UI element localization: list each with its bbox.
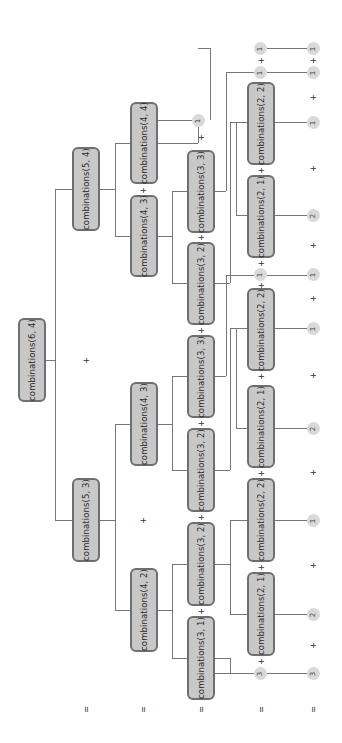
connector-line: [226, 275, 227, 376]
call-node-label: combinations(3, 1): [196, 617, 206, 699]
connector-line: [215, 191, 226, 192]
connector-line: [172, 470, 187, 471]
plus-operator: +: [138, 185, 148, 195]
call-node: combinations(2, 1): [247, 572, 275, 656]
connector-line: [236, 215, 247, 216]
equals-operator: =: [138, 704, 148, 714]
call-node: combinations(3, 1): [187, 616, 215, 700]
call-node-label: combinations(3, 3): [196, 151, 206, 233]
connector-line: [158, 143, 198, 144]
call-node-label: combinations(2, 1): [256, 176, 266, 258]
call-node-label: combinations(6, 4): [27, 319, 37, 401]
connector-line: [275, 122, 307, 123]
result-leaf: 1: [192, 114, 205, 127]
connector-line: [215, 376, 226, 377]
call-node-label: combinations(4, 4): [139, 102, 149, 184]
call-node: combinations(3, 2): [187, 242, 215, 325]
call-node-label: combinations(4, 3): [139, 195, 149, 277]
result-leaf: 1: [307, 268, 320, 281]
plus-operator: +: [256, 280, 266, 290]
result-value: 1: [310, 120, 318, 124]
connector-line: [172, 376, 187, 377]
connector-line: [267, 72, 307, 73]
plus-operator: +: [196, 418, 206, 428]
result-leaf: 3: [254, 667, 267, 680]
call-node: combinations(2, 1): [247, 385, 275, 468]
call-node: combinations(4, 2): [130, 568, 158, 652]
connector-line: [275, 328, 307, 329]
result-leaf: 3: [307, 667, 320, 680]
connector-line: [275, 215, 307, 216]
connector-line: [275, 614, 307, 615]
plus-operator: +: [256, 371, 266, 381]
call-node-label: combinations(5, 3): [81, 479, 91, 561]
plus-operator: +: [256, 55, 266, 65]
connector-line: [198, 48, 210, 49]
plus-operator: +: [138, 515, 148, 525]
plus-operator: +: [196, 512, 206, 522]
connector-line: [236, 328, 237, 428]
connector-line: [226, 275, 254, 276]
result-value: 1: [310, 70, 318, 74]
connector-line: [215, 470, 230, 471]
call-node: combinations(4, 4): [130, 102, 158, 184]
result-leaf: 1: [307, 514, 320, 527]
connector-line: [115, 236, 130, 237]
plus-operator: +: [308, 92, 318, 102]
connector-line: [100, 189, 115, 190]
connector-line: [115, 143, 116, 236]
connector-line: [115, 143, 130, 144]
call-node: combinations(6, 4): [18, 318, 46, 402]
call-node-label: combinations(3, 2): [196, 243, 206, 325]
connector-line: [236, 428, 247, 429]
result-value: 3: [310, 671, 318, 675]
result-value: 1: [310, 272, 318, 276]
connector-line: [158, 236, 172, 237]
result-value: 1: [257, 46, 265, 50]
plus-operator: +: [308, 293, 318, 303]
call-node: combinations(2, 1): [247, 175, 275, 258]
plus-operator: +: [256, 468, 266, 478]
result-leaf: 1: [254, 42, 267, 55]
connector-line: [115, 424, 130, 425]
connector-line: [275, 428, 307, 429]
connector-line: [226, 72, 254, 73]
equals-operator: =: [308, 704, 318, 714]
connector-line: [100, 520, 115, 521]
call-node-label: combinations(2, 1): [256, 386, 266, 468]
connector-line: [275, 520, 307, 521]
result-value: 2: [310, 426, 318, 430]
result-leaf: 2: [307, 422, 320, 435]
connector-line: [158, 120, 192, 121]
connector-line: [230, 520, 231, 614]
equals-operator: =: [196, 704, 206, 714]
connector-line: [230, 614, 247, 615]
connector-line: [230, 328, 231, 470]
call-node: combinations(2, 2): [247, 478, 275, 562]
result-value: 1: [257, 272, 265, 276]
call-node-label: combinations(2, 1): [256, 573, 266, 655]
plus-operator: +: [256, 562, 266, 572]
call-node-label: combinations(3, 3): [196, 336, 206, 418]
result-value: 2: [310, 213, 318, 217]
connector-line: [55, 189, 56, 520]
call-node-label: combinations(2, 2): [256, 289, 266, 371]
call-node: combinations(4, 3): [130, 382, 158, 466]
result-value: 1: [310, 326, 318, 330]
result-value: 1: [310, 518, 318, 522]
connector-line: [172, 191, 173, 283]
connector-line: [172, 564, 173, 658]
connector-line: [172, 564, 187, 565]
plus-operator: +: [256, 656, 266, 666]
connector-line: [210, 48, 211, 120]
call-node: combinations(5, 4): [72, 147, 100, 231]
plus-operator: +: [81, 355, 91, 365]
connector-line: [230, 328, 247, 329]
plus-operator: +: [196, 232, 206, 242]
result-leaf: 1: [307, 322, 320, 335]
connector-line: [172, 658, 187, 659]
connector-line: [158, 610, 172, 611]
plus-operator: +: [256, 258, 266, 268]
call-node: combinations(5, 3): [72, 478, 100, 562]
connector-line: [158, 424, 172, 425]
